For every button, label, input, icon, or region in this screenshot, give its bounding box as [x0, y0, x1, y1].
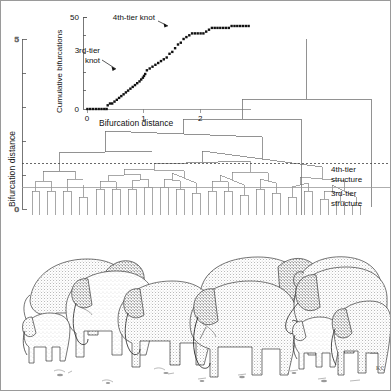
- third-tier-label-line1: 3rd-tier: [331, 189, 356, 198]
- fourth-tier-knot-annotation: 4th-tier knot: [113, 13, 156, 22]
- artist-signature: KC: [376, 365, 385, 371]
- elephant-illustration-svg: [2, 223, 391, 391]
- third-tier-knot-annotation-line2: knot: [85, 56, 101, 65]
- fourth-tier-label-line1: 4th-tier: [331, 165, 356, 174]
- dendrogram-panel: Bifurcation distance 5 0: [1, 1, 391, 223]
- inset-chart: Cumulative bifurcations Bifurcation dist…: [55, 9, 255, 129]
- inset-xtick-2: 2: [198, 114, 203, 123]
- fourth-tier-structure-label: 4th-tier structure: [331, 165, 362, 184]
- third-tier-knot-annotation-line1: 3rd-tier: [75, 46, 101, 55]
- dendro-ytick-5: 5: [15, 35, 20, 44]
- elephant-right-juvenile: [331, 301, 391, 375]
- figure-container: Bifurcation distance 5 0: [0, 0, 391, 391]
- inset-xtick-1: 1: [141, 114, 146, 123]
- dendro-ytick-0: 0: [15, 205, 20, 214]
- inset-data-markers: [86, 25, 250, 110]
- elephant-herd-illustration: KC: [2, 223, 391, 391]
- inset-ytick-0: 0: [75, 105, 80, 114]
- inset-ytick-50: 50: [70, 13, 79, 22]
- elephant-calf-left: [22, 313, 70, 363]
- inset-xtick-0: 0: [85, 114, 90, 123]
- third-tier-knot-leader: [102, 60, 116, 69]
- third-tier-structure-label: 3rd-tier structure: [331, 189, 362, 208]
- fourth-tier-label-line2: structure: [331, 175, 362, 184]
- third-tier-label-line2: structure: [331, 199, 362, 208]
- inset-svg: 50 0 0 1 2: [55, 9, 255, 129]
